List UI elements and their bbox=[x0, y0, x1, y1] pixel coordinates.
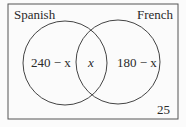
spanish-only-value: 240 − x bbox=[31, 55, 71, 70]
french-label: French bbox=[137, 7, 174, 22]
venn-diagram: Spanish French 240 − x x 180 − x 25 bbox=[0, 0, 186, 127]
spanish-label: Spanish bbox=[14, 7, 56, 22]
french-only-region: 180 − x bbox=[117, 55, 157, 70]
french-only-value: 180 − x bbox=[117, 55, 157, 70]
spanish-only-region: 240 − x bbox=[31, 55, 71, 70]
outside-value: 25 bbox=[157, 102, 170, 117]
intersection-region: x bbox=[87, 55, 94, 70]
